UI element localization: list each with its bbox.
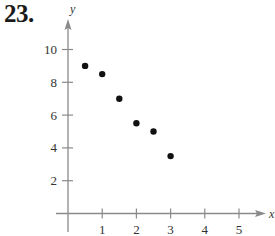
data-point bbox=[116, 96, 122, 102]
y-tick-label: 4 bbox=[51, 140, 58, 155]
data-point bbox=[150, 128, 156, 134]
x-axis-label: x bbox=[268, 207, 275, 221]
y-tick-label: 10 bbox=[44, 42, 57, 57]
data-point bbox=[99, 71, 105, 77]
data-point bbox=[167, 153, 173, 159]
x-tick-label: 5 bbox=[236, 222, 243, 236]
data-point bbox=[133, 120, 139, 126]
x-tick-label: 4 bbox=[202, 222, 209, 236]
data-points bbox=[82, 63, 174, 160]
y-tick-label: 6 bbox=[51, 108, 58, 123]
scatter-plot: 12345246810 x y bbox=[0, 0, 275, 235]
data-point bbox=[82, 63, 88, 69]
y-tick-label: 2 bbox=[51, 173, 58, 188]
axes bbox=[56, 19, 266, 232]
y-axis-label: y bbox=[69, 2, 76, 16]
x-tick-label: 2 bbox=[133, 222, 140, 236]
x-tick-label: 1 bbox=[99, 222, 106, 236]
x-tick-label: 3 bbox=[167, 222, 174, 236]
y-tick-label: 8 bbox=[51, 75, 58, 90]
ticks: 12345246810 bbox=[44, 42, 242, 235]
